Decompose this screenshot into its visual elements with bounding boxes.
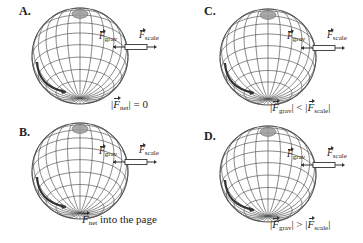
force-comparison-caption: |Fgrav| < |Fscale| xyxy=(270,101,330,115)
panel-c: C. Fgrav Fscale |Fgrav| < |Fscale| xyxy=(182,0,363,121)
f-grav-label: Fgrav xyxy=(287,31,305,43)
f-scale-label: Fscale xyxy=(327,30,347,42)
f-grav-label: Fgrav xyxy=(287,149,305,161)
panel-a: A. Fgrav Fscale |Fnet| = 0 xyxy=(0,0,181,121)
panel-d: D. Fgrav Fscale |Fgrav| > |Fscale| xyxy=(182,121,363,242)
panel-b: B. Fgrav Fscale Fnet into the page xyxy=(0,121,181,242)
net-force-caption: Fnet into the page xyxy=(82,213,157,227)
f-grav-label: Fgrav xyxy=(99,31,117,43)
f-grav-label: Fgrav xyxy=(99,146,117,158)
earth-globe-icon xyxy=(0,0,181,121)
net-force-caption: |Fnet| = 0 xyxy=(111,98,148,112)
f-scale-label: Fscale xyxy=(139,30,159,42)
force-comparison-caption: |Fgrav| > |Fscale| xyxy=(270,218,330,232)
f-scale-label: Fscale xyxy=(139,145,159,157)
f-scale-label: Fscale xyxy=(327,148,347,160)
